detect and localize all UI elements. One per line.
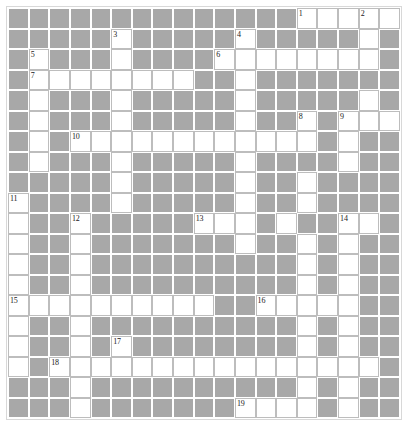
answer-cell[interactable]: [276, 131, 297, 152]
answer-cell[interactable]: [132, 357, 153, 378]
answer-cell[interactable]: [276, 357, 297, 378]
answer-cell[interactable]: [214, 213, 235, 234]
answer-cell[interactable]: [297, 357, 318, 378]
answer-cell[interactable]: 8: [297, 111, 318, 132]
answer-cell[interactable]: [379, 8, 400, 29]
answer-cell[interactable]: [111, 111, 132, 132]
answer-cell[interactable]: 2: [359, 8, 380, 29]
answer-cell[interactable]: [152, 131, 173, 152]
answer-cell[interactable]: [297, 275, 318, 296]
answer-cell[interactable]: [338, 8, 359, 29]
answer-cell[interactable]: [132, 295, 153, 316]
answer-cell[interactable]: [338, 357, 359, 378]
answer-cell[interactable]: [235, 131, 256, 152]
answer-cell[interactable]: [111, 131, 132, 152]
answer-cell[interactable]: [276, 398, 297, 419]
answer-cell[interactable]: [29, 111, 50, 132]
answer-cell[interactable]: [338, 316, 359, 337]
answer-cell[interactable]: [317, 295, 338, 316]
answer-cell[interactable]: [29, 152, 50, 173]
answer-cell[interactable]: [91, 295, 112, 316]
answer-cell[interactable]: 7: [29, 70, 50, 91]
answer-cell[interactable]: [256, 131, 277, 152]
answer-cell[interactable]: [152, 70, 173, 91]
answer-cell[interactable]: [111, 49, 132, 70]
answer-cell[interactable]: [70, 336, 91, 357]
answer-cell[interactable]: [194, 131, 215, 152]
answer-cell[interactable]: [49, 70, 70, 91]
answer-cell[interactable]: [111, 295, 132, 316]
answer-cell[interactable]: [297, 49, 318, 70]
answer-cell[interactable]: [359, 111, 380, 132]
answer-cell[interactable]: [276, 49, 297, 70]
answer-cell[interactable]: [338, 336, 359, 357]
answer-cell[interactable]: [338, 275, 359, 296]
answer-cell[interactable]: [235, 111, 256, 132]
answer-cell[interactable]: [173, 131, 194, 152]
answer-cell[interactable]: [173, 357, 194, 378]
answer-cell[interactable]: 9: [338, 111, 359, 132]
answer-cell[interactable]: [276, 295, 297, 316]
answer-cell[interactable]: [235, 49, 256, 70]
answer-cell[interactable]: [70, 254, 91, 275]
answer-cell[interactable]: [70, 377, 91, 398]
answer-cell[interactable]: [297, 316, 318, 337]
answer-cell[interactable]: [29, 90, 50, 111]
answer-cell[interactable]: [338, 152, 359, 173]
answer-cell[interactable]: [70, 275, 91, 296]
answer-cell[interactable]: 12: [70, 213, 91, 234]
answer-cell[interactable]: [194, 295, 215, 316]
answer-cell[interactable]: [359, 29, 380, 50]
answer-cell[interactable]: [297, 295, 318, 316]
answer-cell[interactable]: [49, 295, 70, 316]
answer-cell[interactable]: [173, 70, 194, 91]
answer-cell[interactable]: [70, 295, 91, 316]
answer-cell[interactable]: [256, 49, 277, 70]
answer-cell[interactable]: 5: [29, 49, 50, 70]
answer-cell[interactable]: [132, 131, 153, 152]
answer-cell[interactable]: [297, 398, 318, 419]
answer-cell[interactable]: 4: [235, 29, 256, 50]
answer-cell[interactable]: [297, 377, 318, 398]
answer-cell[interactable]: [235, 357, 256, 378]
answer-cell[interactable]: [214, 131, 235, 152]
answer-cell[interactable]: [276, 213, 297, 234]
answer-cell[interactable]: [91, 131, 112, 152]
answer-cell[interactable]: [338, 295, 359, 316]
answer-cell[interactable]: 18: [49, 357, 70, 378]
answer-cell[interactable]: [8, 254, 29, 275]
answer-cell[interactable]: 17: [111, 336, 132, 357]
answer-cell[interactable]: [8, 275, 29, 296]
answer-cell[interactable]: 19: [235, 398, 256, 419]
answer-cell[interactable]: [70, 316, 91, 337]
answer-cell[interactable]: [338, 131, 359, 152]
answer-cell[interactable]: [111, 70, 132, 91]
answer-cell[interactable]: [70, 234, 91, 255]
answer-cell[interactable]: [8, 234, 29, 255]
answer-cell[interactable]: [338, 398, 359, 419]
answer-cell[interactable]: [256, 398, 277, 419]
answer-cell[interactable]: [317, 357, 338, 378]
answer-cell[interactable]: [173, 295, 194, 316]
answer-cell[interactable]: [235, 172, 256, 193]
answer-cell[interactable]: 11: [8, 193, 29, 214]
answer-cell[interactable]: [214, 357, 235, 378]
answer-cell[interactable]: [256, 357, 277, 378]
answer-cell[interactable]: [297, 336, 318, 357]
answer-cell[interactable]: [8, 316, 29, 337]
answer-cell[interactable]: [8, 357, 29, 378]
answer-cell[interactable]: [152, 295, 173, 316]
answer-cell[interactable]: [359, 213, 380, 234]
answer-cell[interactable]: [111, 152, 132, 173]
answer-cell[interactable]: [338, 377, 359, 398]
answer-cell[interactable]: [29, 131, 50, 152]
answer-cell[interactable]: [317, 8, 338, 29]
answer-cell[interactable]: [111, 357, 132, 378]
answer-cell[interactable]: [297, 172, 318, 193]
answer-cell[interactable]: [91, 70, 112, 91]
answer-cell[interactable]: [338, 234, 359, 255]
crossword-grid[interactable]: 12345678910111213141516171819: [8, 8, 400, 418]
answer-cell[interactable]: [297, 254, 318, 275]
answer-cell[interactable]: [235, 152, 256, 173]
answer-cell[interactable]: [8, 336, 29, 357]
